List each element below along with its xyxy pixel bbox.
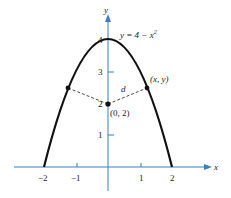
y-tick-label: 4 — [98, 35, 103, 45]
x-tick-label: 1 — [139, 173, 144, 183]
x-tick-label: −1 — [71, 173, 81, 183]
y-tick-label: 2 — [98, 99, 103, 109]
y-tick-label: 3 — [98, 67, 103, 77]
y-axis-arrow-icon — [105, 14, 111, 22]
center-point-label: (0, 2) — [110, 108, 130, 118]
y-tick-label: 1 — [98, 130, 103, 140]
distance-label: d — [121, 84, 126, 94]
x-axis-label: x — [213, 162, 218, 172]
equation-label: y = 4 − x2 — [119, 29, 157, 40]
parabola-diagram: y x −2 −1 1 2 1 2 3 4 y = 4 − x2 (x, y) … — [0, 0, 231, 198]
y-axis-label: y — [103, 5, 108, 15]
x-tick-label: −2 — [38, 173, 48, 183]
x-axis-arrow-icon — [204, 164, 212, 170]
center-point — [105, 101, 110, 106]
curve-point-label: (x, y) — [150, 74, 168, 84]
curve-point-left — [66, 86, 71, 91]
curve-point-right — [145, 86, 150, 91]
distance-line-right — [108, 88, 147, 104]
x-tick-label: 2 — [170, 173, 175, 183]
